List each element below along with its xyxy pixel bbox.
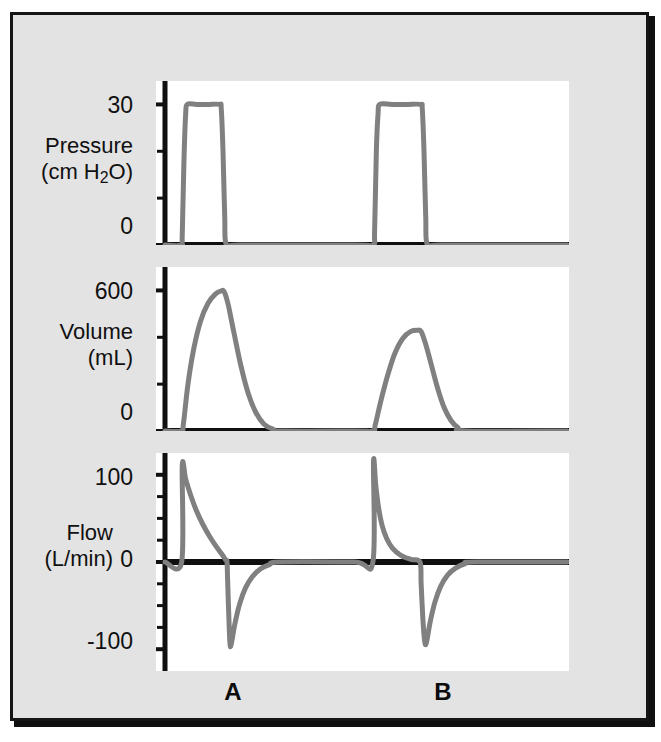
flow-axis-unit: (L/min) (3, 546, 113, 572)
volume-axis-name-text: Volume (60, 319, 133, 344)
volume-tick-0: 0 (33, 400, 133, 425)
flow-panel (156, 453, 569, 671)
figure-frame: 30 Pressure (cm H2O) 0 600 Volume (mL) 0… (10, 12, 649, 721)
pressure-tick-0: 0 (33, 214, 133, 239)
volume-axis-name: Volume (mL) (13, 319, 133, 371)
pressure-panel (156, 81, 569, 245)
pressure-axis-name: Pressure (cm H2O) (13, 133, 133, 187)
flow-tick-neg100: -100 (18, 629, 133, 654)
pressure-axis-name-text: Pressure (45, 133, 133, 158)
volume-plot (156, 267, 569, 431)
figure-root: 30 Pressure (cm H2O) 0 600 Volume (mL) 0… (0, 0, 661, 742)
pressure-tick-30: 30 (33, 93, 133, 118)
pressure-plot (156, 81, 569, 245)
flow-axis-name-text: Flow (67, 520, 113, 545)
volume-panel (156, 267, 569, 431)
pressure-axis-unit: (cm H2O) (13, 159, 133, 187)
flow-tick-100: 100 (23, 465, 133, 490)
breath-label-a: A (203, 678, 263, 706)
flow-plot (156, 453, 569, 671)
breath-label-b: B (413, 678, 473, 706)
flow-axis-name: Flow (L/min) (3, 520, 113, 572)
volume-tick-600: 600 (23, 279, 133, 304)
volume-axis-unit: (mL) (13, 345, 133, 371)
flow-tick-0: 0 (98, 547, 133, 572)
